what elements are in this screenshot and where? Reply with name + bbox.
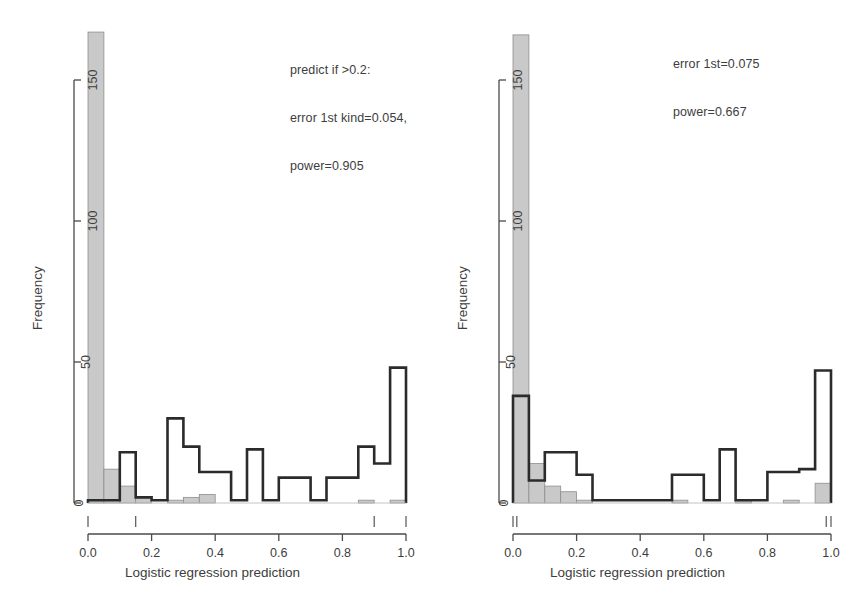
y-axis-title: Frequency (30, 266, 45, 330)
x-tick-label: 0.6 (270, 546, 287, 560)
annotation-line: power=0.667 (673, 104, 760, 120)
outline-histogram-series (88, 368, 406, 503)
histogram-bar-grey (561, 492, 577, 503)
rug-marks (88, 516, 406, 527)
annotation-line: power=0.905 (290, 158, 407, 174)
x-tick-label: 0.8 (759, 546, 776, 560)
histogram-bar-grey (104, 469, 120, 503)
plot-area-right (425, 0, 850, 616)
histogram-bar-grey (183, 497, 199, 503)
panel-right: error 1st=0.075 power=0.667 Logistic reg… (425, 0, 850, 616)
histogram-bar-grey (199, 495, 215, 503)
x-tick-label: 0.4 (631, 546, 648, 560)
panel-left: predict if >0.2: error 1st kind=0.054, p… (0, 0, 425, 616)
y-tick-label: 50 (504, 355, 518, 369)
x-axis-title: Logistic regression prediction (425, 565, 850, 580)
x-tick-label: 0.6 (695, 546, 712, 560)
x-tick-label: 1.0 (397, 546, 414, 560)
y-tick-label: 150 (511, 70, 525, 91)
annotation-right: error 1st=0.075 power=0.667 (673, 24, 760, 152)
y-tick-label: 150 (86, 70, 100, 91)
histogram-bar-grey (88, 32, 104, 503)
annotation-line: predict if >0.2: (290, 62, 407, 78)
y-tick-label: 0 (497, 500, 511, 507)
x-tick-label: 0.2 (568, 546, 585, 560)
figure-canvas: predict if >0.2: error 1st kind=0.054, p… (0, 0, 850, 616)
histogram-bar-grey (545, 486, 561, 503)
annotation-left: predict if >0.2: error 1st kind=0.054, p… (290, 30, 407, 206)
x-tick-label: 0.4 (206, 546, 223, 560)
x-tick-label: 0.2 (143, 546, 160, 560)
x-axis-title: Logistic regression prediction (0, 565, 425, 580)
x-tick-label: 0.0 (79, 546, 96, 560)
annotation-line: error 1st=0.075 (673, 56, 760, 72)
x-tick-label: 1.0 (822, 546, 839, 560)
y-axis-title: Frequency (455, 266, 470, 330)
histogram-bar-grey (513, 35, 529, 503)
annotation-line: error 1st kind=0.054, (290, 110, 407, 126)
x-tick-label: 0.0 (504, 546, 521, 560)
y-tick-label: 0 (72, 500, 86, 507)
outline-histogram-series (513, 370, 831, 503)
histogram-bar-grey (815, 483, 831, 503)
histogram-bar-grey (120, 486, 136, 503)
y-tick-label: 50 (79, 355, 93, 369)
grey-histogram-series (513, 35, 831, 503)
histogram-bar-grey (529, 464, 545, 503)
rug-marks (513, 516, 831, 527)
x-tick-label: 0.8 (334, 546, 351, 560)
y-tick-label: 100 (86, 211, 100, 232)
y-tick-label: 100 (511, 211, 525, 232)
